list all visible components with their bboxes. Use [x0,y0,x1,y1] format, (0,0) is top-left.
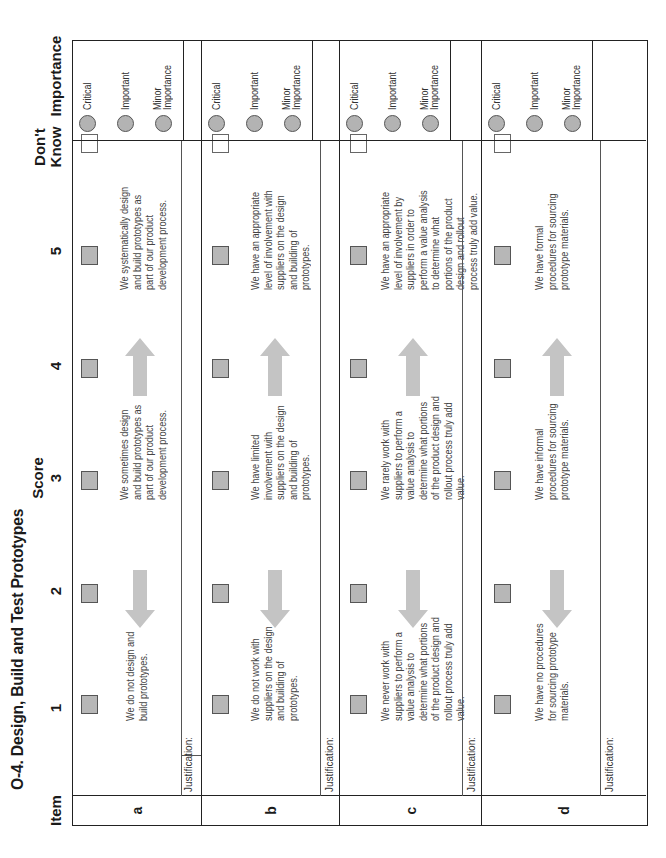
important-radio[interactable] [526,115,543,132]
score-5-description: We have an appropriate level of involvem… [250,184,313,290]
score-1-checkbox[interactable] [212,695,229,714]
arrow-right-icon [398,338,428,396]
critical-radio[interactable] [346,115,363,132]
importance-critical[interactable]: Critical [208,79,225,132]
importance-cell: Critical Important MinorImportance [482,41,646,141]
row-content: We have no procedures for sourcing proto… [482,41,646,796]
score-3-description: We have informal procedures for sourcing… [534,394,572,500]
critical-radio[interactable] [208,115,225,132]
justification-field[interactable] [182,140,201,755]
justification-field[interactable] [601,140,646,726]
importance-minor[interactable]: MinorImportance [153,60,173,132]
arrow-left-icon [398,570,428,628]
justification-label: Justification: [604,737,615,792]
header-item: Item [48,796,63,826]
header-score-5: 5 [48,236,63,266]
score-4-checkbox[interactable] [350,359,367,378]
importance-important[interactable]: Important [384,68,401,132]
header-dont-know-line2: Know [48,122,64,172]
score-3-checkbox[interactable] [494,471,511,490]
score-5-description: We systematically design and build proto… [119,184,169,290]
row-content: We do not design and build prototypes. W… [73,41,201,796]
importance-cell: Critical Important MinorImportance [340,41,481,141]
header-importance: Importance [48,26,63,126]
score-1-description: We never work with suppliers to perform … [380,615,468,721]
minor-importance-radio[interactable] [284,115,301,132]
row-content: We never work with suppliers to perform … [340,41,481,796]
justification-field[interactable] [321,140,339,726]
score-3-checkbox[interactable] [212,471,229,490]
importance-critical[interactable]: Critical [79,79,96,132]
score-5-checkbox[interactable] [212,246,229,265]
importance-critical[interactable]: Critical [488,79,505,132]
minor-importance-radio[interactable] [564,115,581,132]
score-1-checkbox[interactable] [494,695,511,714]
page-title: O-4. Design, Build and Test Prototypes [8,509,28,790]
item-label: c [340,795,481,825]
critical-radio[interactable] [79,115,96,132]
score-2-checkbox[interactable] [212,584,229,603]
table-row-d: d We have no procedures for sourcing pro… [481,41,646,825]
header-score-1: 1 [48,693,63,723]
table-row-c: c We never work with suppliers to perfor… [339,41,481,825]
score-5-checkbox[interactable] [81,246,98,265]
minor-importance-radio[interactable] [422,115,439,132]
arrow-right-icon [260,338,290,396]
importance-minor[interactable]: MinorImportance [420,60,440,132]
score-5-checkbox[interactable] [350,246,367,265]
score-4-checkbox[interactable] [212,359,229,378]
score-5-description: We have formal procedures for sourcing p… [534,184,572,290]
score-4-checkbox[interactable] [494,359,511,378]
score-5-checkbox[interactable] [494,246,511,265]
score-2-checkbox[interactable] [81,584,98,603]
arrow-left-icon [260,570,290,628]
assessment-table: a We do not design and build prototypes.… [72,40,648,826]
table-row-b: b We do not work with suppliers on the d… [201,41,339,825]
score-1-description: We have no procedures for sourcing proto… [534,615,572,721]
arrow-left-icon [125,570,155,628]
justification-label: Justification: [466,737,477,792]
score-1-checkbox[interactable] [350,695,367,714]
arrow-right-icon [125,338,155,396]
justification-label: Justification: [324,737,335,792]
score-3-description: We sometimes design and build prototypes… [119,394,169,500]
item-label: a [73,795,201,825]
importance-cell: Critical Important MinorImportance [73,41,201,141]
score-1-description: We do not work with suppliers on the des… [250,615,300,721]
importance-minor[interactable]: MinorImportance [282,60,302,132]
table-row-a: a We do not design and build prototypes.… [73,41,201,825]
score-3-description: We rarely work with suppliers to perform… [380,394,468,500]
row-content: We do not work with suppliers on the des… [202,41,339,796]
header-dont-know: Don't Know [32,122,64,172]
header-score-3: 3 [48,463,63,493]
score-3-checkbox[interactable] [81,471,98,490]
importance-minor[interactable]: MinorImportance [562,60,582,132]
header-score-4: 4 [48,351,63,381]
importance-cell: Critical Important MinorImportance [202,41,339,141]
important-radio[interactable] [384,115,401,132]
importance-critical[interactable]: Critical [346,79,363,132]
header-score: Score [30,448,45,508]
arrow-right-icon [542,338,572,396]
score-2-checkbox[interactable] [350,584,367,603]
assessment-page: O-4. Design, Build and Test Prototypes I… [0,0,666,858]
score-2-checkbox[interactable] [494,584,511,603]
minor-importance-radio[interactable] [155,115,172,132]
score-1-description: We do not design and build prototypes. [125,615,150,721]
score-1-checkbox[interactable] [81,695,98,714]
importance-important[interactable]: Important [246,68,263,132]
header-dont-know-line1: Don't [32,122,48,172]
score-4-checkbox[interactable] [81,359,98,378]
header-score-2: 2 [48,576,63,606]
item-label: d [482,795,646,825]
importance-important[interactable]: Important [117,68,134,132]
score-3-checkbox[interactable] [350,471,367,490]
critical-radio[interactable] [488,115,505,132]
item-label: b [202,795,339,825]
justification-field[interactable] [463,140,481,726]
arrow-left-icon [542,570,572,628]
important-radio[interactable] [117,115,134,132]
score-3-description: We have limited involvement with supplie… [250,394,313,500]
important-radio[interactable] [246,115,263,132]
importance-important[interactable]: Important [526,68,543,132]
